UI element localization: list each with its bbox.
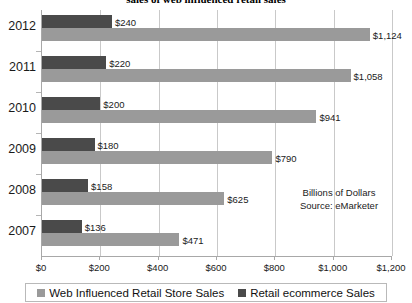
x-axis-tick (391, 256, 392, 260)
value-label-ecommerce-2010: $200 (103, 99, 124, 110)
bar-ecommerce-2010[interactable] (42, 97, 100, 110)
chart-legend: Web Influenced Retail Store SalesRetail … (25, 283, 387, 302)
category-label-2008: 2008 (0, 183, 36, 197)
bar-ecommerce-2011[interactable] (42, 56, 106, 69)
legend-label: Web Influenced Retail Store Sales (49, 287, 224, 299)
x-tick-label-0: $0 (36, 262, 47, 273)
x-tick-label-4: $800 (264, 262, 285, 273)
bar-web-influenced-2007[interactable] (42, 233, 179, 246)
chart-annotation: Billions of Dollars Source: eMarketer (280, 186, 398, 212)
x-axis-tick (158, 256, 159, 260)
category-label-2009: 2009 (0, 142, 36, 156)
value-label-ecommerce-2012: $240 (115, 17, 136, 28)
x-axis-tick (41, 256, 42, 260)
x-tick-label-1: $200 (89, 262, 110, 273)
y-axis-tick (36, 133, 41, 134)
bar-ecommerce-2012[interactable] (42, 15, 112, 28)
chart-row: 2007$136$471 (0, 215, 412, 256)
x-axis-tick (333, 256, 334, 260)
bar-ecommerce-2009[interactable] (42, 138, 95, 151)
chart-container: sales of web influenced retail sales 201… (0, 0, 412, 303)
annotation-units: Billions of Dollars (280, 186, 398, 199)
value-label-web-influenced-2012: $1,124 (373, 30, 402, 41)
x-tick-label-3: $600 (205, 262, 226, 273)
bar-web-influenced-2010[interactable] (42, 110, 316, 123)
annotation-source: Source: eMarketer (280, 199, 398, 212)
x-tick-label-2: $400 (147, 262, 168, 273)
legend-label: Retail ecommerce Sales (250, 287, 375, 299)
bar-web-influenced-2008[interactable] (42, 192, 224, 205)
y-axis-tick (36, 174, 41, 175)
chart-row: 2012$240$1,124 (0, 10, 412, 51)
chart-title: sales of web influenced retail sales (0, 0, 412, 5)
value-label-ecommerce-2008: $158 (91, 181, 112, 192)
category-label-2007: 2007 (0, 224, 36, 238)
value-label-web-influenced-2011: $1,058 (354, 71, 383, 82)
category-label-2011: 2011 (0, 60, 36, 74)
bar-web-influenced-2009[interactable] (42, 151, 272, 164)
legend-item-1[interactable]: Retail ecommerce Sales (238, 287, 375, 299)
y-axis-tick (36, 215, 41, 216)
value-label-web-influenced-2010: $941 (319, 112, 340, 123)
legend-swatch-icon (238, 289, 246, 297)
category-label-2010: 2010 (0, 101, 36, 115)
legend-swatch-icon (37, 289, 45, 297)
chart-row: 2010$200$941 (0, 92, 412, 133)
value-label-web-influenced-2007: $471 (182, 235, 203, 246)
value-label-ecommerce-2007: $136 (85, 222, 106, 233)
value-label-ecommerce-2009: $180 (98, 140, 119, 151)
bar-ecommerce-2008[interactable] (42, 179, 88, 192)
value-label-ecommerce-2011: $220 (109, 58, 130, 69)
bar-web-influenced-2012[interactable] (42, 28, 370, 41)
x-tick-label-5: $1,000 (318, 262, 347, 273)
x-axis-tick (216, 256, 217, 260)
x-tick-label-6: $1,200 (376, 262, 405, 273)
category-label-2012: 2012 (0, 19, 36, 33)
bar-web-influenced-2011[interactable] (42, 69, 351, 82)
value-label-web-influenced-2008: $625 (227, 194, 248, 205)
bar-ecommerce-2007[interactable] (42, 220, 82, 233)
y-axis-tick (36, 51, 41, 52)
chart-row: 2011$220$1,058 (0, 51, 412, 92)
x-axis-tick (274, 256, 275, 260)
y-axis-tick (36, 92, 41, 93)
chart-row: 2009$180$790 (0, 133, 412, 174)
value-label-web-influenced-2009: $790 (275, 153, 296, 164)
x-axis-tick (99, 256, 100, 260)
legend-item-0[interactable]: Web Influenced Retail Store Sales (37, 287, 224, 299)
